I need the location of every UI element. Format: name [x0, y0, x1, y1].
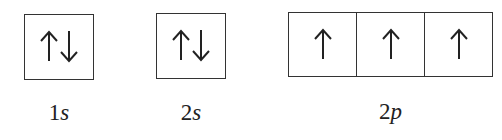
shell-number: 2 — [379, 99, 391, 124]
electron-pair — [25, 15, 93, 79]
orbital-box-2s — [156, 13, 226, 79]
spin-up-arrow-icon — [39, 29, 79, 65]
label-1s: 1s — [24, 100, 94, 126]
subshell-letter: p — [391, 99, 403, 124]
subshell-letter: s — [60, 100, 69, 125]
label-2s: 2s — [156, 100, 226, 126]
label-2p: 2p — [288, 99, 493, 125]
electron-pair — [157, 14, 225, 78]
spin-up-arrow-icon — [313, 27, 333, 63]
spin-up-arrow-icon — [449, 27, 469, 63]
shell-number: 1 — [49, 100, 61, 125]
orbital-group-2p — [288, 12, 493, 77]
subshell-letter: s — [192, 100, 201, 125]
shell-number: 2 — [181, 100, 193, 125]
spin-up-arrow-icon — [381, 27, 401, 63]
orbital-box-2p-1 — [289, 13, 357, 76]
orbital-box-2p-2 — [357, 13, 425, 76]
orbital-box-2p-3 — [425, 13, 492, 76]
spin-up-down-arrows-icon — [171, 28, 211, 64]
orbital-box-1s — [24, 14, 94, 80]
